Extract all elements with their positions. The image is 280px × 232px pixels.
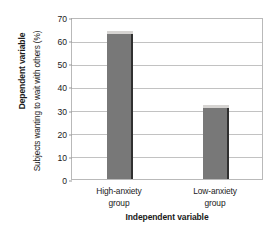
x-category-label: Low-anxietygroup (167, 186, 263, 209)
x-category-label-line: group (167, 198, 263, 210)
gridline (72, 157, 262, 158)
y-tick-label: 0 (62, 177, 72, 186)
y-tick-label: 10 (57, 154, 72, 163)
x-category-label-line: group (71, 198, 167, 210)
gridline (72, 134, 262, 135)
y-tick-label: 50 (57, 61, 72, 70)
bar-top-highlight (107, 31, 133, 34)
plot-area: 010203040506070 (71, 18, 263, 180)
bar (107, 33, 133, 179)
bar-chart: Dependent variable Subjects wanting to w… (0, 0, 280, 232)
y-tick-label: 60 (57, 38, 72, 47)
y-tick-label: 20 (57, 130, 72, 139)
gridline (72, 65, 262, 66)
x-axis-label: Independent variable (71, 212, 263, 222)
x-category-label-line: High-anxiety (71, 186, 167, 198)
y-tick-label: 70 (57, 15, 72, 24)
bar (203, 107, 229, 179)
x-category-label-line: Low-anxiety (167, 186, 263, 198)
gridline (72, 88, 262, 89)
y-tick-label: 30 (57, 107, 72, 116)
x-category-label: High-anxietygroup (71, 186, 167, 209)
y-axis-outer-title: Dependent variable (17, 11, 27, 131)
y-axis-label: Subjects wanting to wait with others (%) (32, 17, 42, 185)
gridline (72, 111, 262, 112)
gridline (72, 42, 262, 43)
bar-top-highlight (203, 105, 229, 108)
y-tick-label: 40 (57, 84, 72, 93)
